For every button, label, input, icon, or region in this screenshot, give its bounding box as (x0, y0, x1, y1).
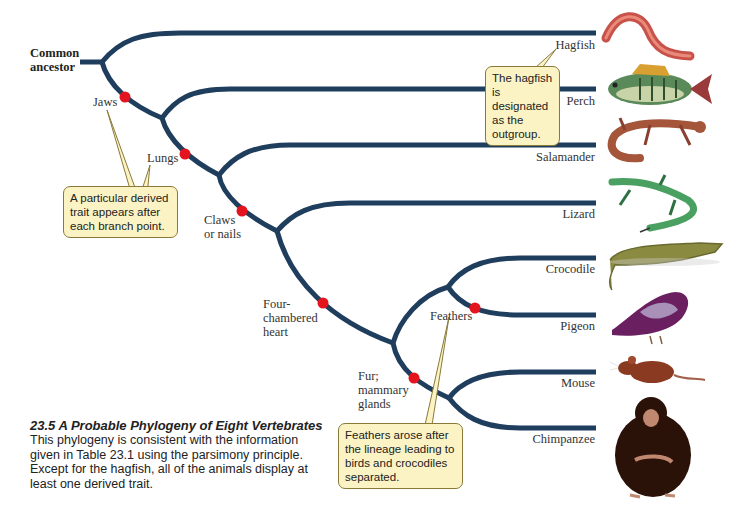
root-label-line1: Common (30, 46, 79, 60)
callout-outgroup: The hagfish is designated as the outgrou… (485, 66, 560, 146)
taxon-label-crocodile: Crocodile (546, 262, 595, 276)
trait-label-lungs: Lungs (147, 151, 178, 165)
lizard-illustration (612, 175, 694, 232)
crocodile-illustration (610, 243, 722, 290)
trait-label-claws-line1: Claws (204, 213, 241, 227)
root-label: Common ancestor (30, 46, 79, 74)
callout-feathers: Feathers arose after the lineage leading… (338, 423, 463, 489)
trait-label-jaws: Jaws (93, 95, 117, 109)
hagfish-illustration (606, 17, 690, 56)
figure-caption: 23.5 A Probable Phylogeny of Eight Verte… (30, 418, 330, 491)
trait-dot-fur (409, 373, 420, 384)
branch-chimpanzee (449, 398, 596, 428)
taxon-label-salamander: Salamander (536, 150, 595, 164)
trait-label-claws: Claws or nails (204, 213, 241, 241)
trait-label-fur-line2: mammary (358, 383, 409, 397)
pigeon-illustration (612, 292, 688, 344)
branch-hagfish (102, 33, 596, 62)
taxon-label-perch: Perch (567, 94, 595, 108)
caption-title: 23.5 A Probable Phylogeny of Eight Verte… (30, 418, 330, 433)
trait-label-heart-line3: heart (263, 325, 318, 339)
chimpanzee-illustration (615, 397, 691, 497)
trait-dot-lungs (180, 149, 191, 160)
trait-label-feathers: Feathers (430, 309, 472, 323)
salamander-illustration (612, 118, 706, 158)
trait-label-heart: Four- chambered heart (263, 297, 318, 339)
taxon-label-hagfish: Hagfish (555, 38, 595, 52)
taxon-label-lizard: Lizard (562, 207, 595, 221)
trait-label-claws-line2: or nails (204, 227, 241, 241)
trait-label-fur-line3: glands (358, 397, 409, 411)
taxon-label-pigeon: Pigeon (560, 319, 595, 333)
trait-label-fur-line1: Fur; (358, 369, 409, 383)
trait-dot-heart (318, 298, 329, 309)
branch-lizard (277, 203, 596, 231)
taxon-label-chimpanzee: Chimpanzee (533, 432, 595, 446)
trait-label-heart-line1: Four- (263, 297, 318, 311)
trait-label-fur: Fur; mammary glands (358, 369, 409, 411)
taxon-label-mouse: Mouse (561, 376, 595, 390)
trait-label-heart-line2: chambered (263, 311, 318, 325)
root-label-line2: ancestor (30, 60, 79, 74)
callout-derived-trait: A particular derived trait appears after… (63, 186, 178, 238)
trait-dot-jaws (120, 92, 131, 103)
mouse-illustration (610, 356, 705, 383)
perch-illustration (608, 64, 712, 105)
caption-body: This phylogeny is consistent with the in… (30, 433, 330, 491)
